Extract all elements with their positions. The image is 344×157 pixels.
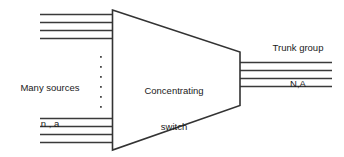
- switch-label-line2: switch: [128, 121, 220, 133]
- ellipsis-dot: [100, 86, 102, 88]
- ellipsis-dot: [100, 76, 102, 78]
- trunk-group-label: Trunk group N,A: [256, 18, 340, 114]
- switch-label: Concentrating switch: [128, 61, 220, 157]
- input-lines-top: [40, 15, 113, 39]
- sources-label-line1: Many sources: [4, 82, 96, 94]
- trunk-label-line1: Trunk group: [256, 42, 340, 54]
- switch-label-line1: Concentrating: [128, 85, 220, 97]
- trunk-label-line2: N,A: [256, 78, 340, 90]
- ellipsis-dot: [100, 96, 102, 98]
- sources-label-line2: n , a: [4, 118, 96, 130]
- vertical-ellipsis-icon: [100, 56, 102, 108]
- ellipsis-dot: [100, 106, 102, 108]
- ellipsis-dot: [100, 66, 102, 68]
- sources-label: Many sources n , a: [4, 58, 96, 154]
- diagram-canvas: Many sources n , a Concentrating switch …: [0, 0, 344, 157]
- ellipsis-dot: [100, 56, 102, 58]
